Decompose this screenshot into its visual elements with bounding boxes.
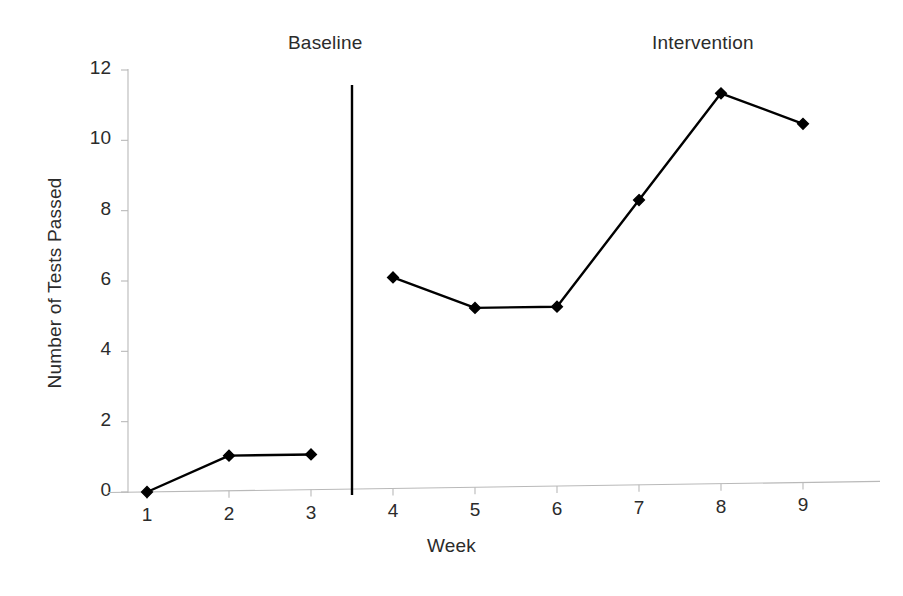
data-point-markers (142, 88, 809, 497)
axes-group (108, 69, 880, 499)
plot-area (0, 0, 903, 596)
line-chart: Baseline Intervention Week Number of Tes… (0, 0, 903, 596)
data-series-line (147, 93, 803, 492)
